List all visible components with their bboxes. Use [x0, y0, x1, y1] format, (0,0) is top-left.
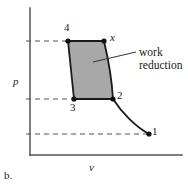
work-reduction-annotation-line1: work: [139, 46, 182, 59]
point-label-x: x: [110, 32, 115, 43]
point-marker-2: [110, 96, 115, 101]
figure-caption: b.: [4, 170, 12, 181]
point-label-4: 4: [64, 22, 70, 33]
work-reduction-annotation-line2: reduction: [139, 59, 182, 72]
point-label-1: 1: [152, 126, 158, 137]
point-marker-4: [65, 38, 70, 43]
point-marker-x: [101, 38, 106, 43]
pv-diagram-figure: 4 x 3 2 1 p v work reduction b.: [0, 0, 188, 184]
work-reduction-annotation: work reduction: [139, 46, 182, 72]
x-axis-label: v: [89, 162, 94, 173]
point-label-3: 3: [70, 102, 76, 113]
point-marker-1: [146, 131, 151, 136]
y-axis-label: p: [13, 76, 19, 87]
point-label-2: 2: [117, 90, 123, 101]
pv-diagram-canvas: [0, 0, 188, 184]
curve-2-to-1: [113, 99, 149, 134]
